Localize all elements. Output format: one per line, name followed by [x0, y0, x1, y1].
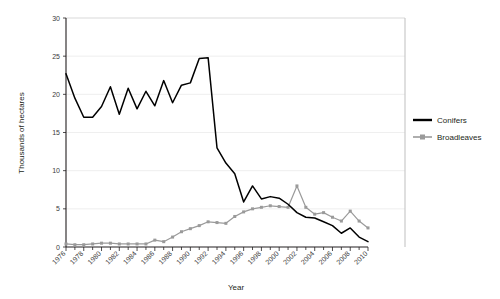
data-point-marker [216, 221, 219, 224]
data-point-marker [144, 242, 147, 245]
data-point-marker [278, 205, 281, 208]
legend-label-broadleaves: Broadleaves [437, 133, 481, 142]
data-point-marker [65, 242, 68, 245]
y-axis-title: Thousands of hectares [17, 92, 26, 173]
data-point-marker [153, 239, 156, 242]
data-point-marker [162, 240, 165, 243]
data-point-marker [91, 242, 94, 245]
data-point-marker [269, 204, 272, 207]
chart-figure: 051015202530 197619781980198219841986198… [0, 0, 500, 299]
data-point-marker [136, 242, 139, 245]
data-point-marker [118, 242, 121, 245]
data-point-marker [313, 213, 316, 216]
legend-label-conifers: Conifers [437, 116, 467, 125]
data-point-marker [242, 210, 245, 213]
data-point-marker [331, 216, 334, 219]
data-point-marker [109, 242, 112, 245]
data-point-marker [224, 222, 227, 225]
data-point-marker [295, 184, 298, 187]
y-tick-label: 30 [52, 15, 60, 22]
data-point-marker [207, 220, 210, 223]
y-tick-label: 20 [52, 91, 60, 98]
data-point-marker [189, 227, 192, 230]
data-point-marker [322, 211, 325, 214]
data-point-marker [358, 220, 361, 223]
data-point-marker [73, 243, 76, 246]
data-point-marker [251, 207, 254, 210]
y-tick-label: 0 [56, 244, 60, 251]
legend-marker-broadleaves [420, 135, 425, 140]
line-chart-svg: 051015202530 197619781980198219841986198… [0, 0, 500, 299]
y-tick-label: 10 [52, 167, 60, 174]
data-point-marker [367, 226, 370, 229]
data-point-marker [260, 206, 263, 209]
data-point-marker [171, 236, 174, 239]
y-tick-label: 15 [52, 129, 60, 136]
data-point-marker [100, 242, 103, 245]
data-point-marker [340, 220, 343, 223]
x-axis-title: Year [228, 283, 245, 292]
data-point-marker [180, 230, 183, 233]
data-point-marker [304, 206, 307, 209]
data-point-marker [82, 243, 85, 246]
data-point-marker [233, 215, 236, 218]
data-point-marker [198, 224, 201, 227]
data-point-marker [127, 242, 130, 245]
y-tick-label: 5 [56, 205, 60, 212]
y-tick-label: 25 [52, 53, 60, 60]
data-point-marker [349, 210, 352, 213]
